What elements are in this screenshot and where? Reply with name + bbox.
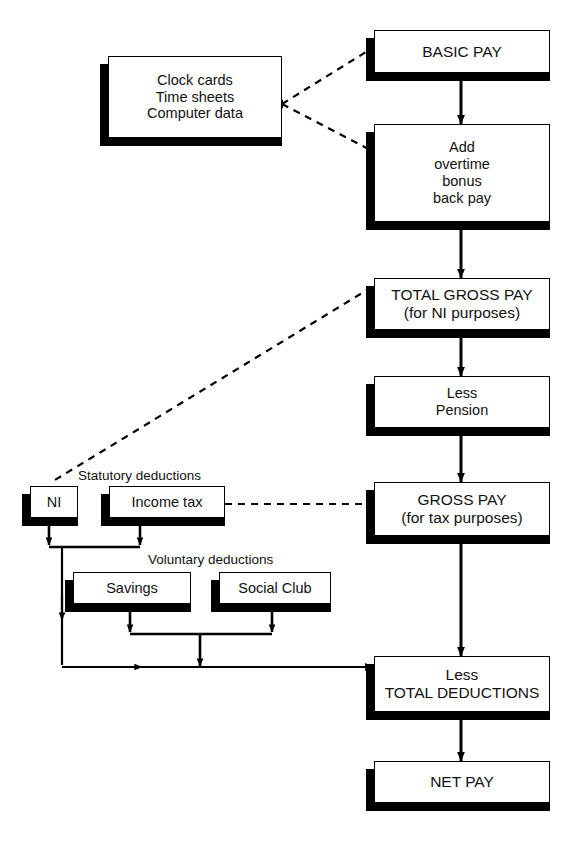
node-net-pay-label: NET PAY bbox=[430, 773, 494, 791]
edge-sources-to-additions bbox=[282, 104, 374, 152]
gross-pay-shadow-bottom bbox=[366, 536, 550, 544]
node-total-gross-pay-label: TOTAL GROSS PAY (for NI purposes) bbox=[391, 286, 532, 322]
node-ni[interactable]: NI bbox=[30, 486, 78, 518]
sources-shadow-left bbox=[100, 64, 108, 146]
flowchart-page: Clock cards Time sheets Computer data BA… bbox=[0, 0, 581, 842]
less-pension-shadow-bottom bbox=[366, 428, 550, 436]
additions-shadow-bottom bbox=[366, 222, 550, 230]
ni-shadow-bottom bbox=[22, 518, 78, 526]
node-sources-label: Clock cards Time sheets Computer data bbox=[147, 72, 243, 122]
node-sources[interactable]: Clock cards Time sheets Computer data bbox=[108, 56, 282, 138]
node-less-pension[interactable]: Less Pension bbox=[374, 376, 550, 428]
node-income-tax[interactable]: Income tax bbox=[109, 486, 225, 518]
node-social-club-label: Social Club bbox=[238, 580, 311, 597]
node-basic-pay[interactable]: BASIC PAY bbox=[374, 30, 550, 73]
social-club-shadow-bottom bbox=[211, 604, 331, 612]
node-additions[interactable]: Add overtime bonus back pay bbox=[374, 124, 550, 222]
node-basic-pay-label: BASIC PAY bbox=[422, 43, 502, 61]
total-deductions-shadow-bottom bbox=[366, 712, 550, 720]
node-gross-pay[interactable]: GROSS PAY (for tax purposes) bbox=[374, 482, 550, 536]
total-deductions-shadow-left bbox=[366, 664, 374, 718]
node-gross-pay-label: GROSS PAY (for tax purposes) bbox=[401, 491, 522, 527]
edge-sources-to-basic-pay bbox=[282, 47, 374, 104]
node-savings[interactable]: Savings bbox=[73, 572, 191, 604]
node-social-club[interactable]: Social Club bbox=[219, 572, 331, 604]
income-tax-shadow-bottom bbox=[101, 518, 225, 526]
caption-statutory-deductions: Statutory deductions bbox=[78, 468, 201, 483]
node-less-pension-label: Less Pension bbox=[436, 385, 488, 419]
node-net-pay[interactable]: NET PAY bbox=[374, 761, 550, 803]
node-income-tax-label: Income tax bbox=[132, 494, 203, 511]
node-ni-label: NI bbox=[47, 494, 62, 511]
node-total-gross-pay[interactable]: TOTAL GROSS PAY (for NI purposes) bbox=[374, 278, 550, 330]
gross-pay-shadow-left bbox=[366, 490, 374, 542]
node-total-deductions-label: Less TOTAL DEDUCTIONS bbox=[385, 666, 540, 702]
sources-shadow-bottom bbox=[100, 138, 282, 146]
additions-shadow-left bbox=[366, 132, 374, 230]
node-additions-label: Add overtime bonus back pay bbox=[433, 139, 491, 206]
total-gross-pay-shadow-bottom bbox=[366, 330, 550, 338]
caption-voluntary-deductions: Voluntary deductions bbox=[148, 552, 273, 567]
node-total-deductions[interactable]: Less TOTAL DEDUCTIONS bbox=[374, 656, 550, 712]
node-savings-label: Savings bbox=[106, 580, 158, 597]
savings-shadow-bottom bbox=[65, 604, 191, 612]
basic-pay-shadow-bottom bbox=[366, 73, 550, 81]
edge-total-gross-pay-to-ni bbox=[50, 287, 372, 483]
net-pay-shadow-bottom bbox=[366, 803, 550, 811]
